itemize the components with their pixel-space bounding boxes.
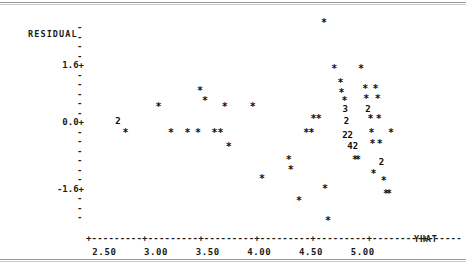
data-point-marker: *: [375, 94, 381, 103]
y-axis-title: RESIDUAL: [28, 30, 78, 39]
data-point-count-label: 2: [379, 158, 384, 167]
data-point-marker: *: [222, 102, 228, 111]
y-tick-minor-2: -: [77, 42, 82, 51]
data-point-marker: *: [156, 102, 162, 111]
residual-plot-page: RESIDUAL YHAT ----1.6+-----0.0+-------1.…: [0, 0, 466, 273]
data-point-marker: *: [197, 86, 203, 95]
data-point-marker: *: [296, 196, 302, 205]
x-tick-label-3_50: 3.50: [186, 248, 230, 257]
y-tick-minor-12: -: [77, 137, 82, 146]
data-point-marker: *: [358, 64, 364, 73]
data-point-count-label: 42: [347, 142, 358, 151]
data-point-marker: *: [226, 142, 232, 151]
data-point-marker: *: [185, 128, 191, 137]
data-point-marker: *: [388, 128, 394, 137]
data-point-marker: *: [373, 84, 379, 93]
data-point-marker: *: [259, 174, 265, 183]
data-point-marker: *: [168, 128, 174, 137]
data-point-marker: *: [325, 216, 331, 225]
y-tick-minor-0: -: [77, 23, 82, 32]
y-tick-label-0: 0.0+: [40, 118, 84, 127]
y-tick-minor-18: -: [77, 194, 82, 203]
data-point-marker: *: [286, 155, 292, 164]
y-tick-minor-8: -: [77, 99, 82, 108]
data-point-marker: *: [250, 102, 256, 111]
data-point-marker: *: [218, 128, 224, 137]
data-point-marker: *: [195, 128, 201, 137]
data-point-marker: *: [309, 128, 315, 137]
data-point-marker: *: [322, 184, 328, 193]
data-point-marker: *: [376, 114, 382, 123]
data-point-marker: *: [362, 84, 368, 93]
y-tick-minor-20: -: [77, 213, 82, 222]
data-point-marker: *: [211, 128, 217, 137]
x-tick-label-2_50: 2.50: [82, 248, 126, 257]
x-axis-line: +---------+---------+---------+---------…: [86, 234, 462, 243]
data-point-marker: *: [337, 78, 343, 87]
data-point-marker: *: [369, 139, 375, 148]
y-tick-minor-6: -: [77, 80, 82, 89]
data-point-marker: *: [363, 94, 369, 103]
data-point-marker: *: [202, 96, 208, 105]
data-point-marker: *: [316, 114, 322, 123]
data-point-marker: *: [288, 165, 294, 174]
data-point-marker: *: [386, 189, 392, 198]
data-point-marker: *: [381, 176, 387, 185]
scatter-plot-canvas: RESIDUAL YHAT ----1.6+-----0.0+-------1.…: [0, 0, 466, 273]
y-tick-minor-14: -: [77, 156, 82, 165]
data-point-count-label: 22: [342, 131, 353, 140]
data-point-count-label: 2: [344, 117, 349, 126]
data-point-marker: *: [355, 155, 361, 164]
data-point-marker: *: [371, 169, 377, 178]
x-tick-label-4_00: 4.00: [237, 248, 281, 257]
data-point-marker: *: [321, 18, 327, 27]
y-tick-minor-16: -: [77, 175, 82, 184]
data-point-count-label: 3: [343, 105, 348, 114]
data-point-marker: *: [367, 114, 373, 123]
data-point-marker: *: [123, 128, 129, 137]
x-tick-label-3_00: 3.00: [134, 248, 178, 257]
x-tick-label-5_00: 5.00: [341, 248, 385, 257]
y-tick-label-1_6: 1.6+: [40, 61, 84, 70]
data-point-marker: *: [377, 139, 383, 148]
x-tick-label-4_50: 4.50: [289, 248, 333, 257]
data-point-marker: *: [331, 64, 337, 73]
data-point-marker: *: [368, 128, 374, 137]
data-point-count-label: 2: [115, 117, 120, 126]
